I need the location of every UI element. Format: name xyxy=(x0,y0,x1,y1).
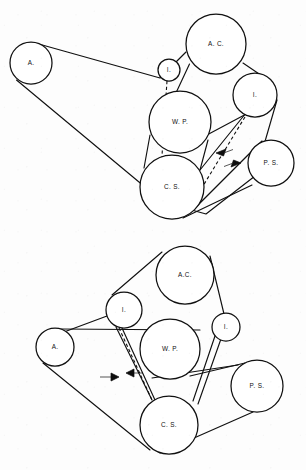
pulley-label-crankshaft-upper: C. S. xyxy=(164,183,180,190)
pulley-label-idler-left-lower: I. xyxy=(122,306,126,313)
pulley-label-idler-right-upper: I. xyxy=(253,91,257,98)
pulley-label-alternator-upper: A. xyxy=(28,59,35,66)
pulley-label-air-conditioning-upper: A. C. xyxy=(208,40,224,47)
upper-deflection-arrow-lower xyxy=(224,160,241,167)
pulley-label-idler-right-lower: I. xyxy=(224,323,228,330)
lower-deflection-arrow-left xyxy=(100,373,119,381)
diagram-page: A. A. C. I. I. W. P. C. S. P. S. xyxy=(0,0,306,470)
pulley-label-power-steering-upper: P. S. xyxy=(264,159,279,166)
pulley-label-power-steering-lower: P. S. xyxy=(250,382,265,389)
lower-belt-routing-panel: A. A.C. I. I. W. P. C. S. P. S. xyxy=(36,246,283,454)
pulley-label-idler-left-upper: I. xyxy=(167,66,171,73)
upper-belt-wp-left xyxy=(144,135,150,168)
upper-belt-routing-panel: A. A. C. I. I. W. P. C. S. P. S. xyxy=(10,14,294,219)
lower-belt-ac-left-run xyxy=(112,252,162,295)
pulley-label-air-conditioning-lower: A.C. xyxy=(178,271,192,278)
pulley-label-water-pump-upper: W. P. xyxy=(172,118,188,125)
belt-routing-diagram: A. A. C. I. I. W. P. C. S. P. S. xyxy=(0,0,306,470)
pulley-label-crankshaft-lower: C. S. xyxy=(161,421,177,428)
pulley-label-alternator-lower: A. xyxy=(52,343,59,350)
pulley-label-water-pump-lower: W. P. xyxy=(162,345,178,352)
upper-deflection-arrow-upper xyxy=(216,149,233,156)
